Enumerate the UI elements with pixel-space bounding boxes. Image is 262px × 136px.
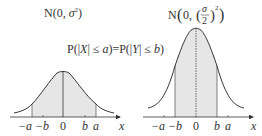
right-title: N ( 0, ( σ 2 ) 2 ) bbox=[168, 3, 224, 26]
normal-distribution-diagram: −a −b 0 b a x N(0, σ2) −a −b 0 b a x N (… bbox=[0, 0, 262, 136]
left-tick-b: b bbox=[82, 119, 88, 133]
svg-text:N: N bbox=[168, 8, 177, 22]
left-title: N(0, σ2) bbox=[44, 6, 82, 20]
svg-text:0,: 0, bbox=[183, 8, 192, 22]
svg-text:): ) bbox=[219, 6, 224, 24]
right-tick-neg-b: −b bbox=[168, 119, 182, 133]
right-tick-neg-a: −a bbox=[151, 119, 165, 133]
svg-text:(: ( bbox=[196, 7, 201, 24]
svg-text:(: ( bbox=[177, 6, 182, 24]
left-graph: −a −b 0 b a x N(0, σ2) bbox=[10, 6, 125, 133]
right-tick-a: a bbox=[225, 119, 231, 133]
left-tick-neg-a: −a bbox=[18, 119, 32, 133]
svg-text:2: 2 bbox=[202, 15, 207, 26]
probability-equation: P(|X| ≤ a)=P(|Y| ≤ b) bbox=[67, 42, 164, 56]
left-axis-label: x bbox=[118, 119, 125, 133]
right-tick-b: b bbox=[214, 119, 220, 133]
right-tick-zero: 0 bbox=[193, 119, 199, 133]
right-graph: −a −b 0 b a x N ( 0, ( σ 2 ) 2 ) bbox=[143, 3, 257, 133]
left-tick-zero: 0 bbox=[60, 119, 66, 133]
svg-text:σ: σ bbox=[202, 3, 208, 14]
left-tick-neg-b: −b bbox=[35, 119, 49, 133]
left-tick-a: a bbox=[93, 119, 99, 133]
right-axis-label: x bbox=[250, 119, 257, 133]
